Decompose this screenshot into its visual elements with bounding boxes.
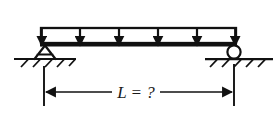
span-dimension: L = ? <box>44 64 234 106</box>
roller-ground-hatching <box>210 60 265 67</box>
beam-diagram-figure: L = ? <box>0 0 279 116</box>
beam-diagram-canvas: L = ? <box>0 0 279 116</box>
span-dimension-label: L = ? <box>116 83 155 102</box>
pin-ground-hatching <box>21 60 75 68</box>
pin-triangle <box>35 46 56 60</box>
pin-support <box>14 46 76 68</box>
load-block-outline <box>41 28 236 43</box>
distributed-load-group <box>41 28 236 45</box>
roller-support <box>205 45 273 67</box>
roller-circle <box>227 45 240 58</box>
